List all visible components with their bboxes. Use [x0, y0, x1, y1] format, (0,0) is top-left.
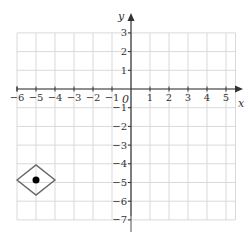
y-axis-arrow-icon: [128, 13, 135, 21]
data-point: [33, 177, 40, 184]
y-tick-label: −7: [112, 214, 127, 225]
y-tick-label: −5: [112, 177, 127, 188]
y-tick-label: −6: [112, 196, 127, 207]
x-tick-label: −5: [29, 92, 44, 103]
y-tick-label: 2: [121, 46, 127, 57]
x-tick-label: −2: [86, 92, 101, 103]
x-tick-label: −3: [67, 92, 82, 103]
coordinate-plane: x y 0 −6−5−4−3−2−112345 321−1−2−3−4−5−6−…: [0, 0, 251, 244]
y-tick-label: −3: [112, 140, 127, 151]
y-tick-label: 3: [121, 27, 127, 38]
x-tick-label: 3: [185, 92, 191, 103]
y-tick-label: −2: [112, 121, 127, 132]
axes: [17, 13, 243, 232]
y-tick-label: −4: [112, 158, 127, 169]
x-tick-label: 2: [166, 92, 172, 103]
y-axis-label: y: [117, 10, 125, 23]
x-tick-label: 1: [147, 92, 153, 103]
y-tick-labels: 321−1−2−3−4−5−6−7: [112, 27, 127, 225]
y-tick-label: 1: [121, 65, 127, 76]
x-tick-label: −4: [48, 92, 63, 103]
x-axis-label: x: [238, 97, 245, 110]
x-tick-label: 4: [204, 92, 210, 103]
x-axis-arrow-icon: [235, 86, 243, 93]
y-tick-label: −1: [112, 102, 127, 113]
x-tick-label: 5: [223, 92, 229, 103]
x-tick-label: −6: [10, 92, 25, 103]
